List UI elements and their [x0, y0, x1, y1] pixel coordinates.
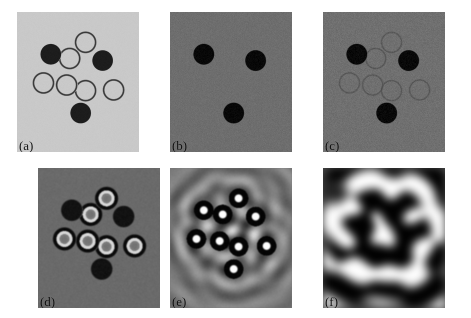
panel-b-label: (b) — [172, 139, 187, 152]
panel-b: (b) — [170, 12, 292, 152]
figure-container: (a) (b) (c) (d) (e) (f) — [0, 0, 471, 318]
panel-e: (e) — [170, 168, 292, 308]
panel-a-image — [17, 12, 139, 152]
panel-f-image — [323, 168, 445, 308]
panel-d: (d) — [38, 168, 160, 308]
panel-c-image — [323, 12, 445, 152]
panel-f-label: (f) — [325, 295, 338, 308]
panel-c: (c) — [323, 12, 445, 152]
panel-b-image — [170, 12, 292, 152]
panel-d-image — [38, 168, 160, 308]
panel-a-label: (a) — [19, 139, 33, 152]
panel-f: (f) — [323, 168, 445, 308]
panel-e-image — [170, 168, 292, 308]
panel-a: (a) — [17, 12, 139, 152]
panel-d-label: (d) — [40, 295, 55, 308]
panel-e-label: (e) — [172, 295, 186, 308]
panel-c-label: (c) — [325, 139, 339, 152]
